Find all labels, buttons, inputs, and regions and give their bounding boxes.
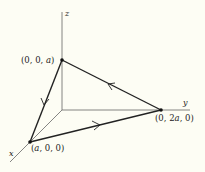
z-axis-label: z: [65, 10, 69, 18]
point-0-2a-0: [159, 108, 163, 112]
edge-p3-to-p2: [30, 110, 161, 142]
point-label-a-0-0: (a, 0, 0): [31, 144, 64, 153]
point-0-0-a: [60, 58, 64, 62]
axes: [10, 12, 190, 162]
x-axis-label: x: [9, 150, 14, 158]
triangle-path: [30, 60, 161, 142]
edge-p1-to-p3: [30, 60, 62, 142]
arrow-icon: [41, 98, 49, 105]
y-axis-label: y: [183, 99, 188, 107]
edge-p2-to-p1: [62, 60, 161, 110]
point-label-0-2a-0: (0, 2a, 0): [155, 114, 194, 123]
point-label-0-0-a: (0, 0, a): [21, 56, 54, 65]
diagram-canvas: z y x (0, 0, a) (0, 2a, 0) (a, 0, 0): [0, 0, 205, 172]
direction-arrows: [41, 83, 115, 130]
